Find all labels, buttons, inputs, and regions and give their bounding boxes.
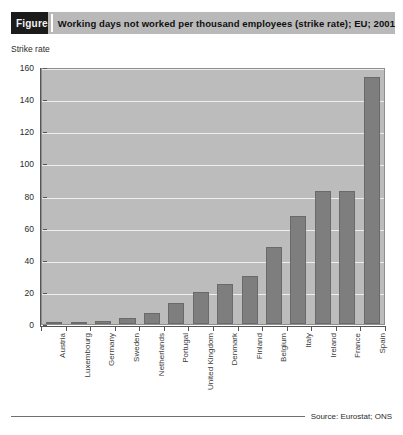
y-tick-label-160: 160 (20, 63, 34, 73)
y-tick-label-40: 40 (25, 256, 34, 266)
x-tick-mark-14 (385, 326, 386, 331)
footer-rule (11, 416, 305, 417)
bar-germany (95, 321, 111, 324)
x-tick-mark-9 (262, 326, 263, 331)
x-label-slot: Denmark (213, 333, 238, 399)
bar-slot-luxembourg (66, 69, 90, 324)
bar-sweden (119, 318, 135, 324)
bar-slot-spain (359, 69, 383, 324)
bar-slot-denmark (213, 69, 237, 324)
bar-denmark (217, 284, 233, 324)
bar-spain (364, 77, 380, 324)
x-tick-mark-7 (213, 326, 214, 331)
x-tick-mark-3 (115, 326, 116, 331)
x-label-slot: Luxembourg (66, 333, 91, 399)
bar-slot-italy (286, 69, 310, 324)
y-tick-mark-40 (43, 261, 47, 262)
bar-series (42, 69, 384, 324)
x-label-slot: Finland (238, 333, 263, 399)
y-tick-label-60: 60 (25, 224, 34, 234)
y-axis-line (40, 68, 41, 326)
bar-slot-netherlands (140, 69, 164, 324)
x-label-slot: Portugal (164, 333, 189, 399)
y-tick-mark-100 (43, 164, 47, 165)
figure-title-text: Working days not worked per thousand emp… (48, 12, 395, 34)
x-label-slot: United Kingdom (188, 333, 213, 399)
x-axis-labels: AustriaLuxembourgGermanySwedenNetherland… (41, 333, 385, 399)
x-tick-mark-6 (188, 326, 189, 331)
bar-slot-united-kingdom (189, 69, 213, 324)
figure-title-banner: Figure Working days not worked per thous… (11, 12, 385, 34)
bar-slot-france (335, 69, 359, 324)
bar-slot-portugal (164, 69, 188, 324)
x-label-slot: Netherlands (139, 333, 164, 399)
x-tick-mark-1 (66, 326, 67, 331)
bar-italy (290, 216, 306, 324)
x-tick-mark-5 (164, 326, 165, 331)
y-axis-ticks: 020406080100120140160 (8, 0, 34, 435)
x-tick-mark-12 (336, 326, 337, 331)
y-tick-mark-120 (43, 132, 47, 133)
y-tick-mark-80 (43, 197, 47, 198)
x-axis-ticks (41, 326, 385, 331)
bar-slot-finland (237, 69, 261, 324)
x-label-slot: Austria (41, 333, 66, 399)
bar-slot-belgium (262, 69, 286, 324)
x-label-slot: Ireland (311, 333, 336, 399)
x-label-slot: Belgium (262, 333, 287, 399)
bar-slot-ireland (311, 69, 335, 324)
y-tick-mark-20 (43, 293, 47, 294)
bar-slot-germany (91, 69, 115, 324)
x-label-slot: Sweden (115, 333, 140, 399)
x-tick-label-spain: Spain (377, 333, 386, 353)
bar-ireland (315, 191, 331, 324)
bar-netherlands (144, 313, 160, 324)
y-tick-label-80: 80 (25, 192, 34, 202)
y-tick-label-120: 120 (20, 127, 34, 137)
y-tick-label-0: 0 (29, 320, 34, 330)
bar-slot-sweden (115, 69, 139, 324)
x-label-slot: Italy (287, 333, 312, 399)
bar-portugal (168, 303, 184, 324)
x-tick-mark-4 (139, 326, 140, 331)
source-note: Source: Eurostat; ONS (305, 412, 392, 421)
x-tick-mark-0 (41, 326, 42, 331)
x-label-slot: Germany (90, 333, 115, 399)
x-label-slot: Spain (361, 333, 386, 399)
chart-plot-area (41, 68, 385, 325)
bar-luxembourg (71, 322, 87, 324)
bar-france (339, 191, 355, 324)
x-tick-mark-13 (360, 326, 361, 331)
y-tick-mark-160 (43, 68, 47, 69)
x-label-slot: France (336, 333, 361, 399)
bar-united-kingdom (193, 292, 209, 324)
x-tick-mark-10 (287, 326, 288, 331)
y-tick-label-100: 100 (20, 159, 34, 169)
y-tick-mark-140 (43, 100, 47, 101)
x-tick-mark-2 (90, 326, 91, 331)
y-tick-label-140: 140 (20, 95, 34, 105)
y-tick-label-20: 20 (25, 288, 34, 298)
figure-footer: Source: Eurostat; ONS (11, 412, 392, 421)
bar-belgium (266, 247, 282, 324)
bar-austria (46, 322, 62, 324)
bar-finland (242, 276, 258, 324)
x-tick-mark-11 (311, 326, 312, 331)
y-tick-mark-60 (43, 229, 47, 230)
x-tick-mark-8 (238, 326, 239, 331)
